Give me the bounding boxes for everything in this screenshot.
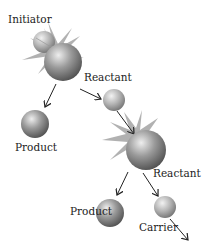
arrow-to-product-1-icon [45,84,56,107]
reactant-label-2: Reactant [153,167,202,179]
carrier-sphere-2 [154,196,176,218]
arrow-to-product-2-icon [117,172,128,195]
carrier-sphere-1 [103,89,125,111]
reactant-label-1: Reactant [84,71,133,83]
reactant-sphere-2 [126,130,166,170]
initiator-label: Initiator [8,13,53,25]
product-label-1: Product [15,141,58,153]
product-label-2: Product [70,205,113,217]
product-sphere-1 [21,110,49,138]
arrow-to-carrier-icon [80,89,101,99]
chain-reaction-diagram: Initiator Reactant Product Reactant Prod… [0,0,205,252]
reactant-sphere-1 [44,43,82,81]
